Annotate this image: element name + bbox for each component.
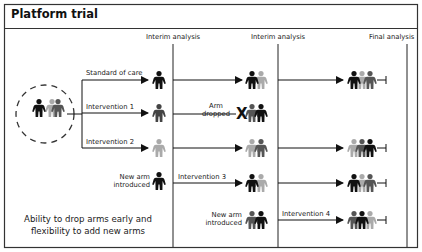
caption-line2: flexibility to add new arms xyxy=(3,225,173,237)
new-arm-group-2-icon xyxy=(245,211,268,229)
caption-line1: Ability to drop arms early and xyxy=(3,213,173,225)
new-arm-1-line2: introduced xyxy=(104,181,150,189)
population-circle xyxy=(16,85,74,143)
new-arm-introduced-1-label: New arm introduced xyxy=(104,173,150,189)
int2-group-2-icon xyxy=(245,139,268,157)
drop-x-icon: X xyxy=(236,105,248,123)
int3-group-2-icon xyxy=(245,174,268,192)
int1-person-icon xyxy=(152,104,166,122)
int4-group-final-icon xyxy=(347,211,377,229)
soc-person-icon xyxy=(152,71,166,89)
final-analysis-label: Final analysis xyxy=(369,33,414,41)
new-arm-2-line2: introduced xyxy=(196,219,242,227)
interim1-arrows xyxy=(173,80,242,183)
interim-analysis-1-label: Interim analysis xyxy=(146,33,200,41)
int2-group-final-icon xyxy=(347,139,377,157)
int2-person-icon xyxy=(152,139,166,157)
diagram-title: Platform trial xyxy=(11,7,98,21)
arm-label-intervention-3: Intervention 3 xyxy=(178,173,226,181)
new-arm-2-line1: New arm xyxy=(196,211,242,219)
diagram-caption: Ability to drop arms early and flexibili… xyxy=(3,213,173,237)
new-arm-person-icon xyxy=(152,172,166,190)
arm-label-standard-of-care: Standard of care xyxy=(86,69,143,77)
interim-analysis-2-label: Interim analysis xyxy=(251,33,305,41)
new-arm-introduced-2-label: New arm introduced xyxy=(196,211,242,227)
arm-label-intervention-1: Intervention 1 xyxy=(86,103,134,111)
arm-dropped-line1: Arm xyxy=(198,102,234,110)
soc-group-final-icon xyxy=(347,71,377,89)
new-arm-1-line1: New arm xyxy=(104,173,150,181)
arm-label-intervention-4: Intervention 4 xyxy=(282,210,330,218)
population-group-icon xyxy=(32,99,65,117)
soc-group-2-icon xyxy=(245,71,268,89)
arm-dropped-line2: dropped xyxy=(198,110,234,118)
end-cap-markers xyxy=(377,76,386,224)
int1-group-2-icon xyxy=(245,104,268,122)
int3-group-final-icon xyxy=(347,174,377,192)
platform-trial-diagram: X xyxy=(0,0,422,252)
arm-label-intervention-2: Intervention 2 xyxy=(86,138,134,146)
interim2-arrows xyxy=(278,80,343,220)
arm-dropped-label: Arm dropped xyxy=(198,102,234,118)
